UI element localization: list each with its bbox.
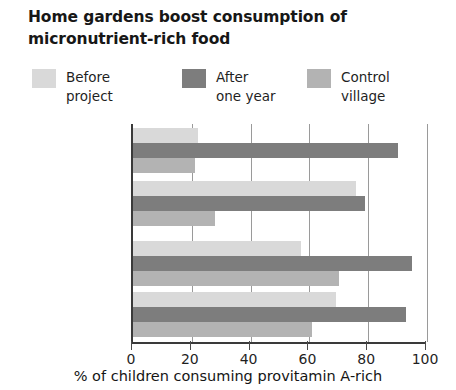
bar-pumpkin-butternut-squash-before-project — [133, 181, 356, 196]
x-tick-0 — [131, 341, 132, 350]
x-tick-label-60: 60 — [298, 351, 316, 367]
bar-spinach-after-one-year — [133, 256, 412, 271]
bar-carrots-control-village — [133, 158, 195, 173]
legend-item-control-village: Control village — [307, 68, 390, 105]
x-tick-label-0: 0 — [127, 351, 136, 367]
bar-spinach-control-village — [133, 271, 339, 286]
bar-carrots-before-project — [133, 128, 198, 143]
x-axis-title: % of children consuming provitamin A-ric… — [0, 368, 456, 384]
x-axis: 020406080100 — [131, 342, 425, 343]
chart-legend: Before project After one year Control vi… — [32, 68, 432, 116]
bar-carrots-after-one-year — [133, 143, 398, 158]
x-axis-line — [131, 342, 425, 344]
x-tick-label-40: 40 — [240, 351, 258, 367]
legend-swatch-after-one-year — [182, 69, 206, 88]
legend-label-before-project: Before project — [66, 68, 113, 105]
x-tick-60 — [307, 341, 308, 350]
bar-imifino-green-leafy-vegetables-before-project — [133, 292, 336, 307]
bar-imifino-green-leafy-vegetables-after-one-year — [133, 307, 406, 322]
plot-area: CarrotsPumpkin/ butternut squashSpinachI… — [131, 124, 425, 342]
bar-group-spinach: Spinach — [133, 241, 425, 286]
legend-swatch-control-village — [307, 69, 331, 88]
x-tick-20 — [190, 341, 191, 350]
x-tick-100 — [425, 341, 426, 350]
x-tick-label-100: 100 — [412, 351, 439, 367]
bar-pumpkin-butternut-squash-control-village — [133, 211, 215, 226]
bar-group-pumpkin-butternut-squash: Pumpkin/ butternut squash — [133, 181, 425, 226]
bar-spinach-before-project — [133, 241, 301, 256]
chart-title: Home gardens boost consumption of micron… — [28, 6, 438, 51]
gridline-100 — [427, 124, 428, 342]
legend-label-control-village: Control village — [341, 68, 390, 105]
x-tick-40 — [249, 341, 250, 350]
legend-item-before-project: Before project — [32, 68, 113, 105]
bar-imifino-green-leafy-vegetables-control-village — [133, 322, 312, 337]
legend-swatch-before-project — [32, 69, 56, 88]
bar-group-imifino-green-leafy-vegetables: Imifino (green, leafy vegetables) — [133, 292, 425, 337]
plot-wrapper: CarrotsPumpkin/ butternut squashSpinachI… — [0, 124, 456, 346]
legend-label-after-one-year: After one year — [216, 68, 276, 105]
bar-group-carrots: Carrots — [133, 128, 425, 173]
bar-pumpkin-butternut-squash-after-one-year — [133, 196, 365, 211]
x-tick-80 — [366, 341, 367, 350]
x-tick-label-80: 80 — [357, 351, 375, 367]
x-tick-label-20: 20 — [181, 351, 199, 367]
legend-item-after-one-year: After one year — [182, 68, 276, 105]
